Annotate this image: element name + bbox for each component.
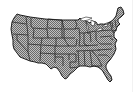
- us-states-map: [0, 0, 137, 92]
